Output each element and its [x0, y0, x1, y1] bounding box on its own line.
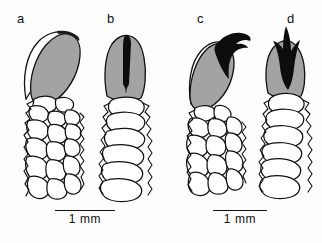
panel-c-shaft — [187, 105, 243, 195]
panel-b-drawing — [99, 35, 152, 202]
scale-bar-right-label: 1 mm — [213, 212, 267, 226]
scale-bar-right-line — [213, 210, 267, 211]
panel-d-shaft — [260, 93, 304, 198]
figure-canvas: a b c d 1 mm 1 mm — [0, 0, 322, 243]
panel-a-shaft — [26, 96, 81, 199]
scale-bar-right: 1 mm — [213, 210, 267, 226]
figure-drawing — [0, 0, 322, 243]
panel-label-a: a — [17, 12, 24, 25]
scale-bar-left: 1 mm — [55, 210, 115, 226]
panel-label-d: d — [287, 12, 294, 25]
scale-bar-left-line — [55, 210, 115, 211]
panel-label-b: b — [107, 12, 114, 25]
panel-c-drawing — [187, 33, 251, 196]
panel-d-drawing — [259, 26, 312, 199]
scale-bar-left-label: 1 mm — [55, 212, 115, 226]
panel-a-drawing — [24, 31, 84, 200]
panel-label-c: c — [197, 12, 204, 25]
